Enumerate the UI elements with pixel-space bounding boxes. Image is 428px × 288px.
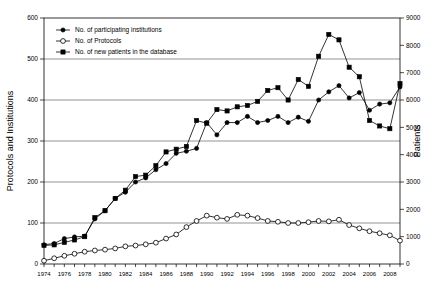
- data-point-marker: [52, 256, 57, 261]
- data-point-marker: [317, 54, 321, 58]
- x-axis-tick-label: 2002: [322, 271, 336, 277]
- y-axis-right-tick-label: 9000: [406, 14, 421, 21]
- data-point-marker: [42, 258, 47, 263]
- data-point-marker: [194, 146, 198, 150]
- data-point-marker: [357, 91, 361, 95]
- data-point-marker: [153, 240, 158, 245]
- x-axis-tick-label: 1990: [200, 271, 214, 277]
- data-point-marker: [92, 248, 97, 253]
- data-point-marker: [327, 32, 331, 36]
- data-point-marker: [347, 223, 352, 228]
- data-point-marker: [245, 213, 250, 218]
- data-point-marker: [326, 219, 331, 224]
- data-point-marker: [398, 82, 402, 86]
- data-point-marker: [174, 147, 178, 151]
- data-point-marker: [93, 215, 97, 219]
- data-point-marker: [204, 213, 209, 218]
- data-point-marker: [174, 151, 178, 155]
- data-point-marker: [225, 120, 229, 124]
- data-point-marker: [194, 118, 198, 122]
- x-axis-tick-label: 1988: [180, 271, 194, 277]
- data-point-marker: [388, 127, 392, 131]
- data-point-marker: [164, 236, 169, 241]
- data-point-marker: [245, 103, 249, 107]
- y-axis-right-tick-label: 2000: [406, 206, 421, 213]
- y-axis-left-tick-label: 0: [34, 260, 38, 267]
- line-chart: 0100200300400500600 01000200030004000500…: [0, 0, 428, 288]
- y-axis-right-tick-label: 3000: [406, 178, 421, 185]
- data-point-marker: [387, 233, 392, 238]
- y-axis-left-tick-label: 100: [27, 219, 38, 226]
- data-point-marker: [133, 180, 137, 184]
- data-point-marker: [215, 133, 219, 137]
- data-point-marker: [225, 217, 230, 222]
- data-point-marker: [215, 215, 220, 220]
- data-point-marker: [235, 212, 240, 217]
- data-point-marker: [62, 240, 66, 244]
- y-axis-right-tick-label: 7000: [406, 69, 421, 76]
- x-axis-tick-label: 1976: [58, 271, 72, 277]
- data-point-marker: [61, 28, 65, 32]
- data-point-marker: [266, 88, 270, 92]
- data-point-marker: [194, 219, 199, 224]
- data-point-marker: [276, 114, 280, 118]
- data-point-marker: [133, 243, 138, 248]
- data-point-marker: [306, 220, 311, 225]
- data-point-marker: [367, 108, 371, 112]
- data-point-marker: [235, 120, 239, 124]
- data-point-marker: [265, 219, 270, 224]
- data-point-marker: [164, 150, 168, 154]
- data-point-marker: [72, 238, 76, 242]
- data-point-marker: [388, 101, 392, 105]
- data-point-marker: [215, 107, 219, 111]
- legend-label: No. of participating institutions: [75, 26, 162, 34]
- y-axis-right-title: Patients: [412, 124, 422, 157]
- data-point-marker: [184, 144, 188, 148]
- x-axis-tick-label: 1986: [159, 271, 173, 277]
- data-point-marker: [306, 119, 310, 123]
- data-point-marker: [62, 253, 67, 258]
- y-axis-left-tick-label: 600: [27, 14, 38, 21]
- data-point-marker: [276, 86, 280, 90]
- data-point-marker: [82, 249, 87, 254]
- x-axis-tick-label: 1994: [241, 271, 255, 277]
- data-point-marker: [123, 188, 127, 192]
- data-point-marker: [154, 164, 158, 168]
- x-axis-tick-label: 2004: [342, 271, 356, 277]
- data-point-marker: [347, 96, 351, 100]
- data-point-marker: [378, 102, 382, 106]
- data-point-marker: [367, 118, 371, 122]
- data-point-marker: [144, 173, 148, 177]
- data-point-marker: [378, 124, 382, 128]
- y-axis-left-title: Protocols and Institutions: [5, 90, 15, 191]
- y-axis-right-tick-label: 1000: [406, 233, 421, 240]
- data-point-marker: [357, 75, 361, 79]
- y-axis-left-tick-label: 300: [27, 137, 38, 144]
- data-point-marker: [225, 109, 229, 113]
- data-point-marker: [61, 39, 66, 44]
- data-point-marker: [337, 217, 342, 222]
- data-point-marker: [296, 115, 300, 119]
- data-point-marker: [52, 243, 56, 247]
- data-point-marker: [256, 120, 260, 124]
- x-axis-tick-label: 1984: [139, 271, 153, 277]
- x-axis-tick-label: 1974: [37, 271, 51, 277]
- x-axis-tick-label: 2000: [302, 271, 316, 277]
- x-axis-tick-label: 1998: [281, 271, 295, 277]
- legend-label: No. of new patients in the database: [75, 48, 177, 56]
- data-point-marker: [367, 229, 372, 234]
- x-axis-tick-label: 2008: [383, 271, 397, 277]
- data-point-marker: [327, 90, 331, 94]
- data-point-marker: [42, 243, 46, 247]
- data-point-marker: [296, 77, 300, 81]
- data-point-marker: [113, 246, 118, 251]
- data-point-marker: [306, 84, 310, 88]
- data-point-marker: [377, 231, 382, 236]
- x-axis-tick-label: 1980: [98, 271, 112, 277]
- data-point-marker: [143, 242, 148, 247]
- data-point-marker: [286, 98, 290, 102]
- data-point-marker: [184, 225, 189, 230]
- data-point-marker: [103, 247, 108, 252]
- data-point-marker: [61, 50, 65, 54]
- data-point-marker: [103, 209, 107, 213]
